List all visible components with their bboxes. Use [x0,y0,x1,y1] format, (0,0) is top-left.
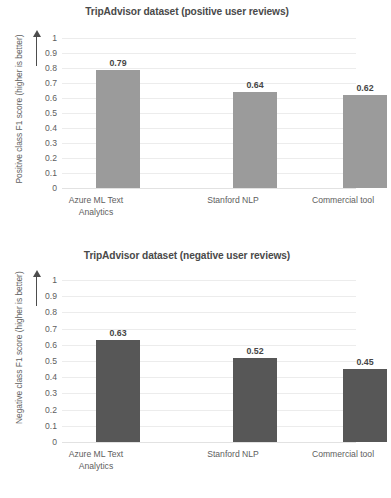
category-label-line: Azure ML Text [41,195,151,207]
y-axis-tick-label: 0.1 [31,422,57,431]
x-axis-category-label: Commercial tool [288,195,391,207]
bar-rect[interactable] [343,369,387,442]
bar-value-label: 0.52 [219,346,291,356]
bar[interactable]: 0.62 [343,38,387,188]
bar[interactable]: 0.52 [233,280,277,442]
y-axis-tick-label: 0.3 [31,139,57,148]
y-axis-tick-label: 1 [31,34,57,43]
x-axis-category-label: Stanford NLP [178,195,288,207]
chart-positive-reviews: TripAdvisor dataset (positive user revie… [0,0,374,238]
bar[interactable]: 0.63 [96,280,140,442]
y-axis-tick-label: 0.6 [31,341,57,350]
y-axis-tick-label: 0 [31,438,57,447]
x-axis-category-label: Commercial tool [288,449,391,461]
y-axis-tick-label: 0 [31,184,57,193]
y-axis-tick-label: 1 [31,276,57,285]
bar-rect[interactable] [233,92,277,188]
y-axis-tick-label: 0.9 [31,49,57,58]
y-axis-tick-label: 0.5 [31,357,57,366]
y-axis-tick-label: 0.2 [31,405,57,414]
y-axis-tick-label: 0.7 [31,79,57,88]
bar[interactable]: 0.79 [96,38,140,188]
bar-value-label: 0.64 [219,80,291,90]
bar-value-label: 0.63 [82,328,154,338]
y-axis-label-negative: Negative class F1 score (higher is bette… [14,274,24,424]
plot-area-negative: 10.90.80.70.60.50.40.30.20.100.63Azure M… [62,244,356,494]
x-axis-category-label: Stanford NLP [178,449,288,461]
bar[interactable]: 0.45 [343,280,387,442]
bar-rect[interactable] [96,70,140,189]
y-axis-tick-label: 0.4 [31,373,57,382]
y-axis-tick-label: 0.5 [31,109,57,118]
bar-value-label: 0.62 [329,83,391,93]
y-axis-tick-label: 0.1 [31,169,57,178]
plot-area-positive: 10.90.80.70.60.50.40.30.20.100.79Azure M… [62,0,356,238]
y-axis-tick-label: 0.6 [31,94,57,103]
x-axis-category-label: Azure ML TextAnalytics [41,195,151,218]
bar-rect[interactable] [233,358,277,442]
bottom-caption-fragment [0,489,374,498]
category-label-line: Azure ML Text [41,449,151,461]
category-label-line: Commercial tool [288,449,391,461]
gridline [62,442,356,443]
bar-value-label: 0.45 [329,357,391,367]
y-axis-tick-label: 0.4 [31,124,57,133]
x-axis-category-label: Azure ML TextAnalytics [41,449,151,472]
category-label-line: Analytics [41,207,151,219]
chart-negative-reviews: TripAdvisor dataset (negative user revie… [0,244,374,494]
bar-value-label: 0.79 [82,58,154,68]
y-axis-tick-label: 0.8 [31,64,57,73]
y-axis-label-positive: Positive class F1 score (higher is bette… [14,34,24,184]
category-label-line: Analytics [41,461,151,473]
category-label-line: Stanford NLP [178,195,288,207]
bar[interactable]: 0.64 [233,38,277,188]
bar-rect[interactable] [96,340,140,442]
gridline [62,188,356,189]
y-axis-tick-label: 0.9 [31,292,57,301]
category-label-line: Stanford NLP [178,449,288,461]
y-axis-tick-label: 0.7 [31,324,57,333]
y-axis-tick-label: 0.2 [31,154,57,163]
category-label-line: Commercial tool [288,195,391,207]
y-axis-tick-label: 0.3 [31,389,57,398]
bar-rect[interactable] [343,95,387,188]
y-axis-tick-label: 0.8 [31,308,57,317]
